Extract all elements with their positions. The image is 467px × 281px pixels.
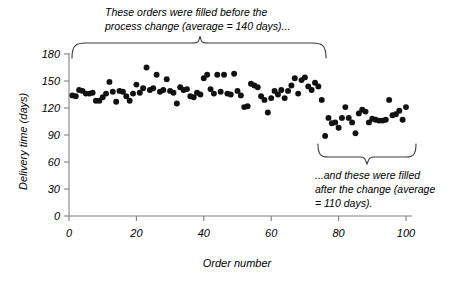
y-tick-label: 60 (48, 156, 61, 168)
data-point (221, 72, 227, 78)
data-point (352, 130, 358, 136)
data-point (113, 99, 119, 105)
data-point (309, 87, 315, 93)
data-point (363, 109, 369, 115)
data-point (383, 117, 389, 123)
x-tick-label: 60 (265, 227, 278, 239)
data-point (150, 85, 156, 91)
data-point (326, 115, 332, 121)
x-tick-label: 0 (66, 227, 73, 239)
data-point (184, 86, 190, 92)
data-point (315, 83, 321, 89)
data-point (171, 90, 177, 96)
data-point (268, 95, 274, 101)
data-point (332, 119, 338, 125)
data-point (265, 110, 271, 116)
data-points-before-change (69, 65, 324, 116)
data-point (336, 125, 342, 131)
x-tick-label: 100 (397, 227, 416, 239)
data-point (103, 91, 109, 97)
data-point (218, 89, 224, 95)
data-point (174, 101, 180, 107)
data-point (349, 119, 355, 125)
data-point (403, 104, 409, 110)
x-tick-label: 80 (332, 227, 345, 239)
data-point (245, 103, 251, 109)
data-point (231, 71, 237, 77)
data-point (342, 104, 348, 110)
data-point (295, 91, 301, 97)
data-point (140, 85, 146, 91)
data-point (292, 75, 298, 81)
data-point (144, 65, 150, 71)
data-point (133, 82, 139, 88)
data-points-after-change (322, 97, 409, 139)
annotation-bottom-line1: ...and these were filled (315, 169, 421, 181)
scatter-plot-svg: 0306090120150180 020406080100 Delivery t… (0, 0, 467, 281)
annotation-bottom-line3: = 110 days). (315, 197, 372, 209)
data-point (197, 92, 203, 98)
data-point (73, 93, 79, 99)
y-tick-label: 150 (42, 75, 61, 87)
y-axis-label: Delivery time (days) (17, 92, 29, 190)
axes-group (64, 53, 412, 221)
data-point (90, 90, 96, 96)
data-point (285, 88, 291, 94)
data-point (238, 92, 244, 98)
data-point (339, 115, 345, 121)
annotation-top-line2: process change (average = 140 days)... (104, 20, 290, 32)
data-point (106, 79, 112, 85)
data-point (386, 97, 392, 103)
y-tick-label: 30 (48, 183, 61, 195)
brace-top (72, 36, 326, 58)
data-point (228, 92, 234, 98)
x-tick-labels: 020406080100 (66, 227, 416, 239)
data-point (288, 83, 294, 89)
data-point (127, 98, 133, 104)
data-point (164, 76, 170, 82)
x-tick-label: 20 (129, 227, 143, 239)
y-tick-label: 120 (42, 102, 61, 114)
annotation-top-line1: These orders were filled before the (105, 6, 267, 18)
data-point (204, 72, 210, 78)
data-point (396, 108, 402, 114)
data-point (130, 91, 136, 97)
data-point (255, 84, 261, 90)
data-point (400, 117, 406, 123)
data-point (322, 133, 328, 139)
y-tick-label: 180 (42, 48, 61, 60)
y-tick-labels: 0306090120150180 (42, 48, 61, 222)
annotation-bottom-line2: after the change (average (315, 183, 435, 195)
x-tick-label: 40 (198, 227, 211, 239)
data-point (261, 97, 267, 103)
data-point (214, 72, 220, 78)
chart-figure: 0306090120150180 020406080100 Delivery t… (0, 0, 467, 281)
data-point (211, 91, 217, 97)
data-point (110, 89, 116, 95)
data-point (160, 87, 166, 93)
brace-bottom (318, 144, 416, 164)
x-axis-label: Order number (203, 257, 273, 269)
y-tick-label: 0 (54, 210, 61, 222)
y-tick-label: 90 (48, 129, 61, 141)
data-point (302, 74, 308, 80)
data-point (319, 97, 325, 103)
data-point (282, 95, 288, 101)
data-point (278, 87, 284, 93)
data-point (154, 72, 160, 78)
